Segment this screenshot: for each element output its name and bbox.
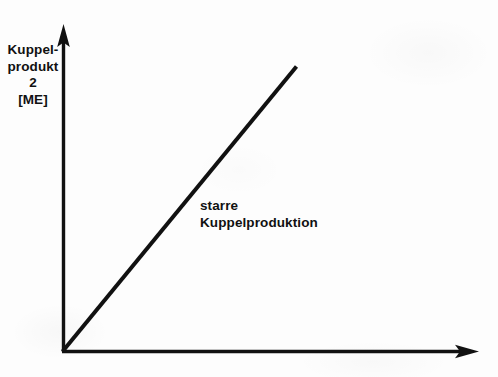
y-axis-label-line-3: 2 [5,75,61,92]
y-axis-label-line-4: [ME] [5,92,61,109]
y-axis-label-line-2: produkt [5,59,61,76]
curve-annotation-line-1: starre [200,198,318,215]
y-axis-label: Kuppel- produkt 2 [ME] [5,42,61,108]
curve-annotation-line-2: Kuppelproduktion [200,215,318,232]
y-axis-label-line-1: Kuppel- [5,42,61,59]
figure-canvas: Kuppel- produkt 2 [ME] starre Kuppelprod… [0,0,498,377]
plot-area [0,0,498,377]
curve-annotation: starre Kuppelproduktion [200,198,318,231]
